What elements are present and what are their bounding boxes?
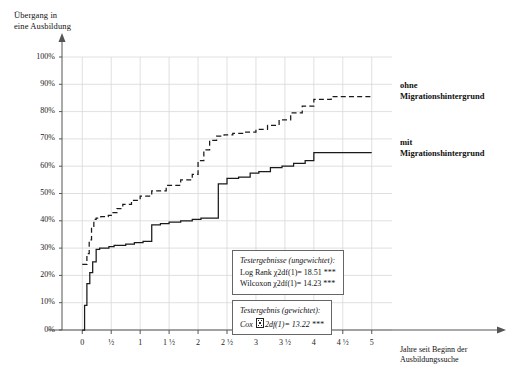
chart-container: Übergang in eine Ausbildung Jahre seit B… bbox=[0, 0, 520, 379]
y-tick-label: 30% bbox=[25, 243, 55, 252]
y-axis-title: Übergang in eine Ausbildung bbox=[14, 10, 71, 32]
x-tick-label: 0 bbox=[67, 338, 97, 347]
annotation-box-weighted: Testergebnis (gewichtet): Cox 2df(1)= 13… bbox=[232, 300, 332, 335]
y-tick-label: 90% bbox=[25, 79, 55, 88]
missing-glyph-icon bbox=[256, 318, 264, 328]
x-tick-label: 2 bbox=[183, 338, 213, 347]
annotation-unweighted-logrank: Log Rank χ2df(1)= 18.51 *** bbox=[240, 267, 336, 279]
y-tick-label: 100% bbox=[25, 52, 55, 61]
x-tick-label: ½ bbox=[96, 338, 126, 347]
y-tick-label: 70% bbox=[25, 133, 55, 142]
x-axis-title: Jahre seit Beginn der Ausbildungssuche bbox=[400, 345, 467, 365]
x-tick-label: 1 ½ bbox=[154, 338, 184, 347]
y-tick-label: 40% bbox=[25, 215, 55, 224]
x-tick-label: 3 bbox=[241, 338, 271, 347]
x-tick-label: 4 ½ bbox=[328, 338, 358, 347]
x-tick-label: 2 ½ bbox=[212, 338, 242, 347]
y-tick-label: 0% bbox=[25, 325, 55, 334]
x-tick-label: 1 bbox=[125, 338, 155, 347]
annotation-unweighted-title: Testergebnisse (ungewichtet): bbox=[240, 255, 336, 267]
y-tick-label: 60% bbox=[25, 161, 55, 170]
annotation-weighted-title: Testergebnis (gewichtet): bbox=[240, 305, 324, 317]
annotation-weighted-cox: Cox 2df(1)= 13.22 *** bbox=[240, 317, 324, 331]
annotation-weighted-cox-prefix: Cox bbox=[240, 320, 255, 329]
series-label-ohne-migrationshintergrund: ohne Migrationshintergrund bbox=[400, 80, 485, 102]
x-tick-label: 3 ½ bbox=[270, 338, 300, 347]
y-tick-label: 10% bbox=[25, 297, 55, 306]
annotation-box-unweighted: Testergebnisse (ungewichtet): Log Rank χ… bbox=[232, 250, 344, 295]
y-tick-label: 50% bbox=[25, 188, 55, 197]
x-tick-label: 4 bbox=[299, 338, 329, 347]
annotation-unweighted-wilcoxon: Wilcoxon χ2df(1)= 14.23 *** bbox=[240, 278, 336, 290]
series-label-mit-migrationshintergrund: mit Migrationshintergrund bbox=[400, 137, 485, 159]
x-tick-label: 5 bbox=[357, 338, 387, 347]
annotation-weighted-cox-suffix: 2df(1)= 13.22 *** bbox=[265, 320, 324, 329]
y-tick-label: 80% bbox=[25, 106, 55, 115]
y-tick-label: 20% bbox=[25, 270, 55, 279]
